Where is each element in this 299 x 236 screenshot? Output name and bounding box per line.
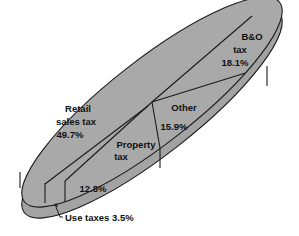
label-use-taxes: Use taxes 3.5% bbox=[65, 212, 134, 223]
label-bo-value: 18.1% bbox=[222, 57, 249, 68]
label-other-line1: Other bbox=[171, 102, 197, 113]
label-other-value: 15.9% bbox=[161, 121, 188, 132]
label-bo-line2: tax bbox=[233, 44, 247, 55]
pie-chart: Retail sales tax 49.7% B&O tax 18.1% Oth… bbox=[0, 0, 299, 236]
label-retail-value: 49.7% bbox=[57, 129, 84, 140]
label-property-value: 12.8% bbox=[80, 183, 107, 194]
label-retail-line2: sales tax bbox=[56, 116, 97, 127]
label-property-line1: Property bbox=[116, 139, 156, 150]
label-property-line2: tax bbox=[114, 151, 128, 162]
label-retail-line1: Retail bbox=[65, 103, 91, 114]
label-bo-line1: B&O bbox=[241, 31, 262, 42]
